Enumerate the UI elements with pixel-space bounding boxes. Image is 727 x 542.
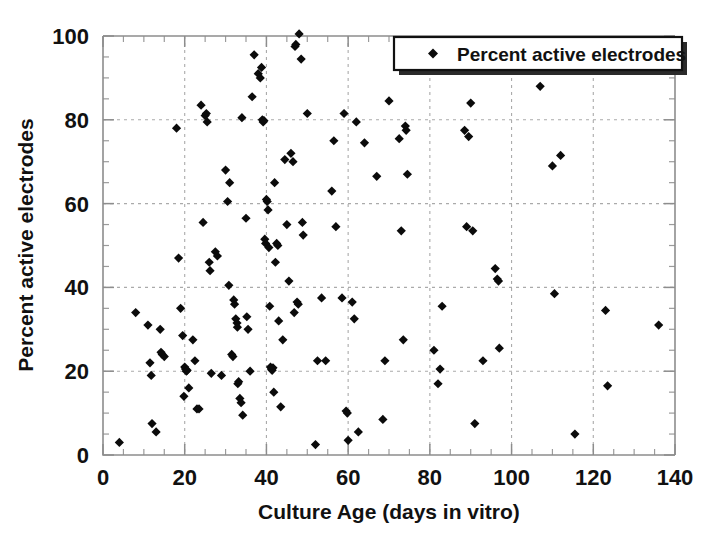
data-point-marker [131, 308, 140, 317]
data-point-marker [435, 365, 444, 374]
data-point-marker [242, 312, 251, 321]
data-points-group [115, 29, 664, 449]
data-point-marker [280, 155, 289, 164]
x-tick-label: 40 [254, 465, 278, 490]
data-point-marker [145, 358, 154, 367]
data-point-marker [536, 82, 545, 91]
data-point-marker [299, 230, 308, 239]
x-tick-label: 120 [575, 465, 612, 490]
data-point-marker [196, 101, 205, 110]
x-axis-tick-labels: 020406080100120140 [97, 465, 693, 490]
data-point-marker [174, 253, 183, 262]
x-tick-label: 140 [657, 465, 694, 490]
data-point-marker [295, 29, 304, 38]
data-point-marker [274, 316, 283, 325]
data-point-marker [276, 402, 285, 411]
data-point-marker [303, 109, 312, 118]
data-point-marker [403, 170, 412, 179]
data-point-marker [327, 186, 336, 195]
data-point-marker [384, 96, 393, 105]
data-point-marker [317, 293, 326, 302]
data-point-marker [348, 297, 357, 306]
y-tick-label: 40 [65, 275, 89, 300]
data-point-marker [556, 151, 565, 160]
legend-label: Percent active electrodes [457, 44, 686, 65]
data-point-marker [288, 157, 297, 166]
data-point-marker [360, 138, 369, 147]
data-point-marker [270, 178, 279, 187]
data-point-marker [331, 222, 340, 231]
data-point-marker [470, 419, 479, 428]
data-point-marker [478, 356, 487, 365]
data-point-marker [176, 304, 185, 313]
data-point-marker [284, 277, 293, 286]
data-point-marker [339, 109, 348, 118]
x-axis-title: Culture Age (days in vitro) [258, 500, 520, 523]
data-point-marker [248, 92, 257, 101]
data-point-marker [344, 436, 353, 445]
data-point-marker [278, 335, 287, 344]
data-point-marker [221, 165, 230, 174]
data-point-marker [380, 356, 389, 365]
x-tick-label: 0 [97, 465, 109, 490]
data-point-marker [286, 149, 295, 158]
data-point-marker [321, 356, 330, 365]
data-point-marker [223, 197, 232, 206]
data-point-marker [147, 419, 156, 428]
data-point-marker [372, 172, 381, 181]
legend: Percent active electrodes [394, 37, 687, 75]
data-point-marker [237, 113, 246, 122]
data-point-marker [399, 335, 408, 344]
data-point-marker [115, 438, 124, 447]
y-tick-label: 0 [77, 443, 89, 468]
data-point-marker [271, 258, 280, 267]
data-point-marker [217, 371, 226, 380]
data-point-marker [241, 214, 250, 223]
data-point-marker [352, 117, 361, 126]
y-tick-label: 100 [52, 24, 89, 49]
y-axis-tick-labels: 020406080100 [52, 24, 89, 468]
data-point-marker [184, 383, 193, 392]
data-point-marker [395, 134, 404, 143]
data-point-marker [143, 321, 152, 330]
data-point-marker [282, 220, 291, 229]
data-point-marker [245, 367, 254, 376]
y-tick-label: 20 [65, 359, 89, 384]
data-point-marker [329, 136, 338, 145]
y-tick-label: 60 [65, 192, 89, 217]
data-point-marker [350, 314, 359, 323]
data-point-marker [205, 266, 214, 275]
data-point-marker [224, 281, 233, 290]
data-point-marker [654, 321, 663, 330]
x-tick-label: 20 [172, 465, 196, 490]
data-point-marker [603, 381, 612, 390]
data-point-marker [188, 335, 197, 344]
data-point-marker [225, 178, 234, 187]
data-point-marker [495, 344, 504, 353]
data-point-marker [466, 98, 475, 107]
scatter-plot-figure: 020406080100120140 020406080100 Culture … [0, 0, 727, 542]
data-point-marker [250, 50, 259, 59]
data-point-marker [207, 369, 216, 378]
data-point-marker [290, 308, 299, 317]
data-point-marker [263, 205, 272, 214]
data-point-marker [238, 411, 247, 420]
data-point-marker [297, 54, 306, 63]
x-tick-label: 80 [418, 465, 442, 490]
data-point-marker [298, 218, 307, 227]
data-point-marker [491, 264, 500, 273]
data-point-marker [548, 161, 557, 170]
data-point-marker [152, 427, 161, 436]
y-axis-title: Percent active electrodes [14, 118, 37, 371]
data-point-marker [205, 258, 214, 267]
data-point-marker [378, 415, 387, 424]
data-point-marker [354, 427, 363, 436]
data-point-marker [601, 306, 610, 315]
data-point-marker [147, 371, 156, 380]
data-point-marker [178, 331, 187, 340]
plot-canvas: 020406080100120140 020406080100 Culture … [0, 0, 727, 542]
data-point-marker [550, 289, 559, 298]
data-point-marker [337, 293, 346, 302]
data-point-marker [156, 325, 165, 334]
data-point-marker [438, 302, 447, 311]
